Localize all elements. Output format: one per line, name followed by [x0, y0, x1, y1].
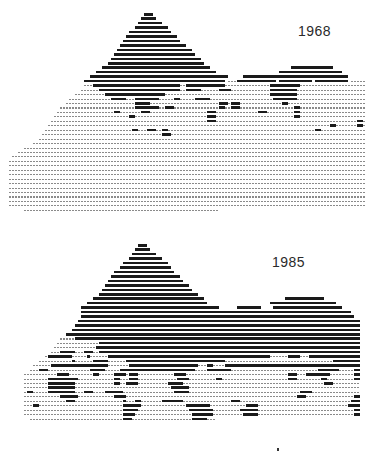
- light-cell: [42, 396, 44, 397]
- light-cell: [144, 134, 146, 135]
- light-cell: [306, 139, 308, 140]
- light-cell: [282, 143, 284, 144]
- light-cell: [171, 410, 173, 411]
- light-cell: [144, 383, 146, 384]
- light-cell: [291, 121, 293, 122]
- light-cell: [63, 134, 65, 135]
- light-cell: [246, 139, 248, 140]
- light-cell: [231, 392, 233, 393]
- light-cell: [96, 179, 98, 180]
- grid-row: [0, 115, 376, 118]
- light-cell: [111, 379, 113, 380]
- light-cell: [345, 85, 347, 86]
- light-cell: [159, 174, 161, 175]
- light-cell: [249, 392, 251, 393]
- light-cell: [243, 103, 245, 104]
- light-cell: [138, 134, 140, 135]
- light-cell: [123, 107, 125, 108]
- light-cell: [348, 201, 350, 202]
- light-cell: [321, 183, 323, 184]
- light-cell: [126, 196, 128, 197]
- light-cell: [201, 134, 203, 135]
- light-cell: [309, 188, 311, 189]
- light-cell: [324, 201, 326, 202]
- light-cell: [228, 192, 230, 193]
- light-cell: [270, 139, 272, 140]
- light-cell: [27, 383, 29, 384]
- light-cell: [219, 161, 221, 162]
- light-cell: [192, 201, 194, 202]
- light-cell: [78, 210, 80, 211]
- light-cell: [330, 156, 332, 157]
- light-cell: [135, 419, 137, 420]
- light-cell: [231, 152, 233, 153]
- light-cell: [234, 374, 236, 375]
- dark-cell: [357, 342, 360, 345]
- light-cell: [69, 125, 71, 126]
- light-cell: [252, 379, 254, 380]
- light-cell: [285, 188, 287, 189]
- light-cell: [195, 170, 197, 171]
- light-cell: [153, 387, 155, 388]
- light-cell: [309, 90, 311, 91]
- light-cell: [117, 405, 119, 406]
- light-cell: [90, 210, 92, 211]
- light-cell: [219, 188, 221, 189]
- light-cell: [354, 170, 356, 171]
- light-cell: [78, 414, 80, 415]
- light-cell: [177, 179, 179, 180]
- light-cell: [204, 174, 206, 175]
- light-cell: [294, 156, 296, 157]
- light-cell: [240, 139, 242, 140]
- light-cell: [255, 188, 257, 189]
- light-cell: [315, 112, 317, 113]
- light-cell: [177, 414, 179, 415]
- light-cell: [216, 103, 218, 104]
- light-cell: [237, 387, 239, 388]
- light-cell: [156, 210, 158, 211]
- light-cell: [177, 148, 179, 149]
- light-cell: [105, 130, 107, 131]
- light-cell: [273, 392, 275, 393]
- light-cell: [60, 401, 62, 402]
- light-cell: [87, 192, 89, 193]
- light-cell: [336, 414, 338, 415]
- light-cell: [195, 210, 197, 211]
- light-cell: [102, 179, 104, 180]
- light-cell: [75, 103, 77, 104]
- light-cell: [57, 414, 59, 415]
- light-cell: [159, 387, 161, 388]
- grid-row: [0, 382, 376, 385]
- light-cell: [198, 396, 200, 397]
- light-cell: [189, 130, 191, 131]
- light-cell: [333, 383, 335, 384]
- light-cell: [18, 156, 20, 157]
- light-cell: [81, 103, 83, 104]
- dark-cell: [357, 400, 360, 403]
- light-cell: [111, 365, 113, 366]
- light-cell: [105, 148, 107, 149]
- light-cell: [165, 414, 167, 415]
- light-cell: [213, 205, 215, 206]
- light-cell: [354, 116, 356, 117]
- light-cell: [27, 205, 29, 206]
- light-cell: [195, 112, 197, 113]
- light-cell: [30, 205, 32, 206]
- light-cell: [339, 183, 341, 184]
- dark-cell: [339, 306, 342, 309]
- grid-row: [0, 266, 376, 269]
- light-cell: [102, 112, 104, 113]
- light-cell: [237, 410, 239, 411]
- light-cell: [51, 125, 53, 126]
- light-cell: [246, 134, 248, 135]
- light-cell: [318, 152, 320, 153]
- light-cell: [315, 410, 317, 411]
- light-cell: [300, 103, 302, 104]
- light-cell: [321, 156, 323, 157]
- light-cell: [168, 165, 170, 166]
- light-cell: [123, 379, 125, 380]
- light-cell: [267, 134, 269, 135]
- light-cell: [363, 192, 365, 193]
- light-cell: [54, 188, 56, 189]
- light-cell: [144, 143, 146, 144]
